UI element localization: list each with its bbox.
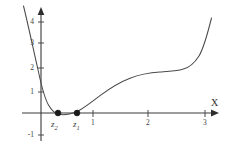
y-tick-label-3: 3 [24,39,34,47]
x-axis-label: X [211,98,218,108]
x-tick-label-1: 1 [91,119,95,127]
x-tick-label-2: 2 [146,119,150,127]
y-tick-label-neg1: -1 [20,131,34,139]
root-label-z1: z1 [73,120,80,131]
root-point-z1 [74,110,80,116]
x-tick-label-3: 3 [203,119,207,127]
root-label-z2-subscript: 2 [55,124,58,131]
root-label-z1-subscript: 1 [77,124,80,131]
function-graph-figure: 4 3 2 1 -1 1 2 3 z2 z1 X [0,0,230,152]
function-curve [24,6,212,115]
plot-canvas [0,0,230,152]
root-point-z2 [55,110,61,116]
y-tick-label-4: 4 [24,18,34,26]
root-label-z2: z2 [51,120,58,131]
y-tick-label-1: 1 [24,88,34,96]
y-axis-arrow-icon [38,7,45,15]
x-axis-arrow-icon [211,110,219,117]
y-tick-label-2: 2 [24,64,34,72]
